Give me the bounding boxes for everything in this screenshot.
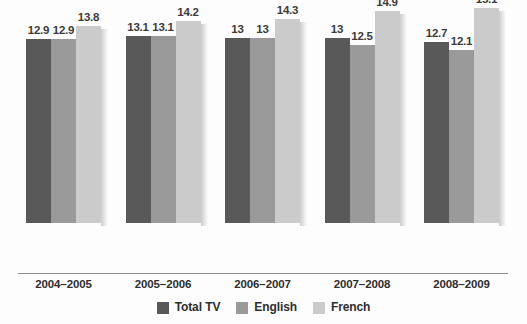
bar-shaft: [350, 45, 375, 223]
bar-french[interactable]: 15.1: [474, 8, 499, 223]
bar-value-label: 12.7: [426, 27, 448, 39]
bar-shaft: [250, 38, 275, 223]
grouped-bar-chart: 12.912.913.82004–200513.113.114.22005–20…: [0, 0, 527, 324]
bar-english[interactable]: 12.5: [350, 45, 375, 223]
bar-value-label: 15.1: [476, 0, 498, 5]
bar-english[interactable]: 12.9: [51, 39, 76, 223]
bar-shaft: [275, 19, 300, 223]
chart-legend: Total TVEnglishFrench: [0, 301, 527, 314]
bar-drop-shadow: [300, 22, 307, 226]
bar-value-label: 13.8: [78, 11, 100, 23]
bar-shaft: [375, 11, 400, 223]
bar-value-label: 13.1: [152, 21, 174, 33]
bar-shaft: [225, 38, 250, 223]
light-gray-swatch: [313, 302, 325, 314]
bar-value-label: 12.5: [351, 30, 373, 42]
bar-total-tv[interactable]: 13: [225, 38, 250, 223]
medium-gray-swatch: [236, 302, 248, 314]
bar-drop-shadow: [400, 14, 407, 226]
bar-value-label: 12.1: [451, 35, 473, 47]
bar-total-tv[interactable]: 12.7: [424, 42, 449, 223]
bar-group-bars: 13.113.114.2: [126, 21, 201, 223]
legend-item-label: Total TV: [175, 301, 221, 314]
legend-item-total-tv[interactable]: Total TV: [157, 301, 221, 314]
bar-french[interactable]: 13.8: [76, 26, 101, 223]
bar-group-bars: 12.712.115.1: [424, 8, 499, 223]
x-axis-category-label: 2005–2006: [126, 278, 201, 290]
bar-drop-shadow: [101, 29, 108, 226]
bar-group-bars: 131314.3: [225, 19, 300, 223]
bar-shaft: [76, 26, 101, 223]
bar-total-tv[interactable]: 13: [325, 38, 350, 223]
x-axis-category-label: 2007–2008: [325, 278, 400, 290]
bar-group-bars: 12.912.913.8: [26, 26, 101, 223]
bar-shaft: [151, 36, 176, 223]
legend-item-french[interactable]: French: [313, 301, 370, 314]
legend-item-label: English: [254, 301, 297, 314]
bar-french[interactable]: 14.9: [375, 11, 400, 223]
bar-shaft: [126, 36, 151, 223]
bar-value-label: 13: [331, 23, 343, 35]
bar-french[interactable]: 14.2: [176, 21, 201, 223]
x-axis-category-label: 2004–2005: [26, 278, 101, 290]
bar-total-tv[interactable]: 13.1: [126, 36, 151, 223]
bar-shaft: [449, 50, 474, 223]
bar-english[interactable]: 13: [250, 38, 275, 223]
bar-value-label: 14.3: [277, 4, 299, 16]
plot-area: 12.912.913.82004–200513.113.114.22005–20…: [0, 0, 527, 274]
x-axis-category-label: 2008–2009: [424, 278, 499, 290]
bar-drop-shadow: [201, 24, 208, 226]
bar-value-label: 14.9: [376, 0, 398, 8]
bar-french[interactable]: 14.3: [275, 19, 300, 223]
bar-shaft: [325, 38, 350, 223]
bar-value-label: 12.9: [28, 24, 50, 36]
bar-shaft: [176, 21, 201, 223]
bar-shaft: [51, 39, 76, 223]
bar-shaft: [474, 8, 499, 223]
bar-english[interactable]: 13.1: [151, 36, 176, 223]
bar-value-label: 13: [231, 23, 243, 35]
bar-value-label: 12.9: [53, 24, 75, 36]
bar-shaft: [26, 39, 51, 223]
bar-group-bars: 1312.514.9: [325, 11, 400, 223]
bar-shaft: [424, 42, 449, 223]
legend-item-label: French: [331, 301, 370, 314]
bar-total-tv[interactable]: 12.9: [26, 39, 51, 223]
x-axis-line: [18, 273, 508, 274]
bar-english[interactable]: 12.1: [449, 50, 474, 223]
x-axis-category-label: 2006–2007: [225, 278, 300, 290]
bar-drop-shadow: [499, 11, 506, 226]
dark-gray-swatch: [157, 302, 169, 314]
legend-item-english[interactable]: English: [236, 301, 297, 314]
bar-value-label: 13.1: [127, 21, 149, 33]
bar-value-label: 14.2: [177, 6, 199, 18]
bar-value-label: 13: [256, 23, 268, 35]
